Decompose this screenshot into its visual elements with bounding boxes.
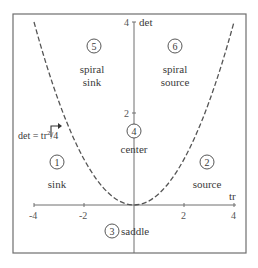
x-axis-label: tr bbox=[229, 190, 236, 202]
region-5-label: sink bbox=[83, 76, 102, 88]
region-1-label: sink bbox=[48, 178, 67, 190]
region-2-number: 2 bbox=[205, 157, 210, 168]
x-tick-label: 4 bbox=[231, 210, 236, 221]
region-3-number: 3 bbox=[110, 226, 115, 237]
region-4-label: center bbox=[121, 143, 148, 155]
x-tick-label: 2 bbox=[181, 210, 186, 221]
region-6-number: 6 bbox=[173, 41, 178, 52]
arrowhead-icon bbox=[58, 123, 62, 129]
region-1-number: 1 bbox=[55, 157, 60, 168]
x-tick-label: -4 bbox=[29, 210, 37, 221]
region-5-label: spiral bbox=[80, 63, 104, 75]
region-5-number: 5 bbox=[92, 41, 97, 52]
region-2-label: source bbox=[193, 178, 222, 190]
y-tick-label: 4 bbox=[124, 17, 129, 28]
region-6-label: source bbox=[161, 76, 190, 88]
region-6-label: spiral bbox=[163, 63, 187, 75]
curve-equation-label: det = tr2/4 bbox=[18, 129, 58, 141]
y-tick-label: 2 bbox=[124, 108, 129, 119]
x-tick-label: -2 bbox=[79, 210, 87, 221]
region-3-label: saddle bbox=[121, 225, 149, 237]
y-axis-label: det bbox=[139, 16, 152, 28]
region-4-number: 4 bbox=[132, 126, 137, 137]
tr-det-diagram: -4 -2 2 4 2 4 tr det 5 spiral sink 6 spi… bbox=[0, 0, 258, 268]
